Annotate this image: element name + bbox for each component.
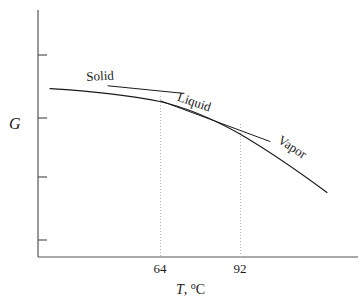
y-axis-title: G bbox=[9, 116, 21, 132]
x-axis-tick-label-92: 92 bbox=[226, 262, 254, 275]
figure-container: G 64 92 T, oC Solid Liquid Vapor bbox=[0, 0, 360, 306]
x-axis-title-unit: C bbox=[196, 282, 205, 297]
curve-label-solid: Solid bbox=[86, 69, 114, 83]
x-axis-tick-label-64: 64 bbox=[146, 262, 174, 275]
x-axis-title-symbol: T bbox=[176, 282, 184, 297]
solid-branch-tangent-line bbox=[108, 86, 184, 94]
x-axis-title-separator: , bbox=[184, 282, 191, 297]
liquid-branch-tangent-line bbox=[161, 101, 270, 142]
x-axis-title: T, oC bbox=[176, 281, 205, 297]
